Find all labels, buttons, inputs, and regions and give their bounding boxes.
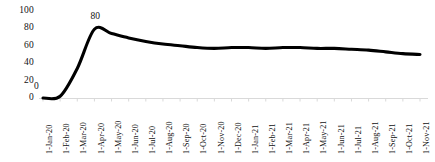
x-axis-tick-label: 1-Mar-21 xyxy=(286,122,294,154)
x-axis-tick-label: 1-Jun-21 xyxy=(338,124,346,154)
y-axis-tick-label: 0 xyxy=(8,93,34,103)
y-axis-tick-label: 60 xyxy=(8,41,34,51)
x-axis-tick-label: 1-Jul-20 xyxy=(149,126,157,154)
data-series-line xyxy=(43,27,420,99)
x-axis-tick-label: 1-Sep-20 xyxy=(183,123,191,154)
x-axis-tick-label: 1-Jul-21 xyxy=(355,126,363,154)
x-axis-tick-label: 1-Sep-21 xyxy=(389,123,397,154)
x-axis-tick-label: 1-Feb-20 xyxy=(63,123,71,154)
x-axis-tick-label: 1-Oct-21 xyxy=(406,124,414,154)
x-axis-tick-label: 1-May-21 xyxy=(320,120,328,154)
x-axis-tick-label: 1-Mar-20 xyxy=(80,122,88,154)
line-chart: 020406080100 1-Jan-201-Feb-201-Mar-201-A… xyxy=(0,0,435,162)
x-axis-tick-label: 1-Oct-20 xyxy=(200,124,208,154)
x-axis-tick-label: 1-Nov-21 xyxy=(423,121,431,154)
x-axis-tick-label: 1-Jan-20 xyxy=(46,125,54,154)
data-point-annotation: 80 xyxy=(90,12,100,22)
x-axis-tick-label: 1-Jan-21 xyxy=(252,125,260,154)
x-axis-tick-label: 1-Apr-20 xyxy=(98,123,106,154)
x-axis-tick-label: 1-Apr-21 xyxy=(303,123,311,154)
x-axis-tick-label: 1-Aug-21 xyxy=(372,121,380,154)
data-point-annotation: 0 xyxy=(34,82,39,92)
y-axis-tick-label: 20 xyxy=(8,76,34,86)
x-axis-tick-label: 1-Dec-20 xyxy=(235,122,243,154)
x-axis-tick-label: 1-May-20 xyxy=(115,120,123,154)
y-axis-tick-label: 80 xyxy=(8,23,34,33)
x-axis-tick-label: 1-Jun-20 xyxy=(132,124,140,154)
y-axis-tick-label: 100 xyxy=(8,6,34,16)
y-axis-tick-label: 40 xyxy=(8,58,34,68)
axis-group xyxy=(39,99,428,102)
x-axis-tick-label: 1-Nov-20 xyxy=(218,121,226,154)
x-axis-tick-label: 1-Aug-20 xyxy=(166,121,174,154)
x-axis-tick-label: 1-Feb-21 xyxy=(269,123,277,154)
